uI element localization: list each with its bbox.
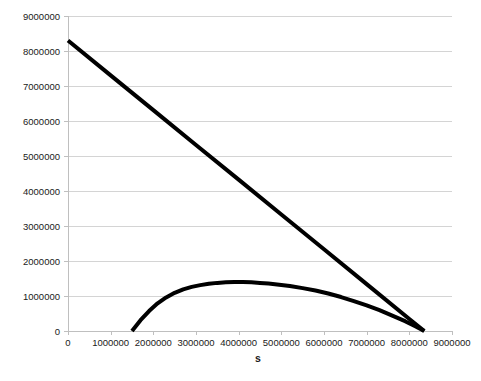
x-tick-label: 6000000 <box>306 337 343 348</box>
y-tick-label: 9000000 <box>23 11 60 22</box>
x-tick-label: 4000000 <box>220 337 257 348</box>
x-tick-label: 9000000 <box>434 337 471 348</box>
y-tick-label: 6000000 <box>23 116 60 127</box>
y-tick-label: 0 <box>55 326 60 337</box>
x-axis-tick-labels: 0100000020000003000000400000050000006000… <box>65 337 470 348</box>
y-tick-label: 3000000 <box>23 221 60 232</box>
chart-plot: 0100000020000003000000400000050000006000… <box>0 0 481 381</box>
x-tick-label: 5000000 <box>263 337 300 348</box>
x-tick-label: 8000000 <box>391 337 428 348</box>
y-tick-label: 8000000 <box>23 46 60 57</box>
chart-container: 0100000020000003000000400000050000006000… <box>0 0 481 381</box>
x-tick-label: 2000000 <box>135 337 172 348</box>
x-axis-title: s <box>255 352 261 364</box>
y-tick-label: 5000000 <box>23 151 60 162</box>
x-tick-label: 0 <box>65 337 70 348</box>
x-tick-label: 7000000 <box>348 337 385 348</box>
x-tick-label: 1000000 <box>92 337 129 348</box>
y-tick-label: 4000000 <box>23 186 60 197</box>
y-tick-label: 1000000 <box>23 291 60 302</box>
y-tick-label: 7000000 <box>23 81 60 92</box>
y-tick-label: 2000000 <box>23 256 60 267</box>
x-tick-label: 3000000 <box>178 337 215 348</box>
